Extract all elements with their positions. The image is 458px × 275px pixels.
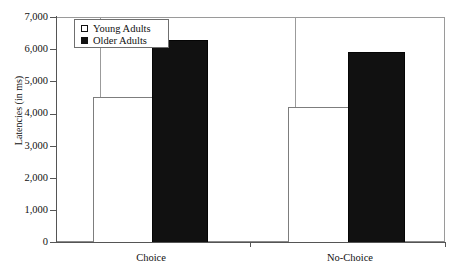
y-tick-label-1000: 1,000	[2, 205, 48, 215]
bar-chart: Latencies (in ms) 7,000 6,000 5,000 4,00…	[0, 0, 458, 275]
bar-young-adults-no-choice	[288, 107, 349, 242]
y-tick-label-2000: 2,000	[2, 173, 48, 183]
y-tick-label-6000: 6,000	[2, 44, 48, 54]
x-tick-label-choice: Choice	[106, 252, 196, 263]
y-tick-label-5000: 5,000	[2, 76, 48, 86]
legend: Young Adults Older Adults	[74, 19, 169, 48]
x-tick-label-no-choice: No-Choice	[300, 252, 400, 263]
legend-label-young-adults: Young Adults	[93, 23, 151, 34]
bar-young-adults-choice	[93, 97, 153, 242]
y-tick-label-4000: 4,000	[2, 108, 48, 118]
open-square-marker-icon	[81, 25, 88, 32]
x-tick-mark-right	[445, 242, 446, 247]
y-tick-label-0: 0	[2, 237, 48, 247]
y-tick-label-7000: 7,000	[2, 12, 48, 22]
x-tick-mark-center	[250, 242, 251, 247]
bar-older-adults-choice	[152, 40, 208, 243]
legend-entry-young-adults: Young Adults	[81, 22, 164, 34]
legend-label-older-adults: Older Adults	[93, 35, 147, 46]
legend-entry-older-adults: Older Adults	[81, 34, 164, 46]
y-axis-line	[56, 16, 57, 243]
bar-older-adults-no-choice	[348, 52, 405, 242]
y-tick-label-3000: 3,000	[2, 141, 48, 151]
filled-square-marker-icon	[81, 37, 88, 44]
